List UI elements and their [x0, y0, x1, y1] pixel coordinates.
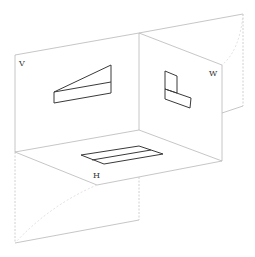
- h-plane: [15, 130, 222, 185]
- w-rotation-arc: [222, 14, 243, 65]
- h-plane-label: H: [93, 172, 100, 180]
- v-plane: [15, 33, 139, 152]
- projection-diagram: V W H: [0, 0, 255, 257]
- v-plane-label: V: [19, 60, 25, 68]
- v-projection-shape: [54, 65, 111, 103]
- diagram-canvas: [0, 0, 255, 257]
- h-plane-rotated: [15, 152, 139, 243]
- w-plane-label: W: [209, 70, 217, 78]
- h-rotation-arc: [15, 185, 97, 243]
- h-projection-shape: [81, 146, 163, 164]
- w-plane: [139, 33, 222, 161]
- w-projection-shape: [165, 71, 191, 108]
